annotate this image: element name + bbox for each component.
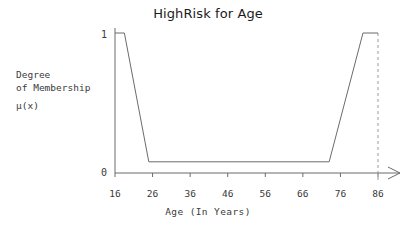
x-tick-label-56: 56 bbox=[253, 188, 277, 199]
x-tick-label-46: 46 bbox=[216, 188, 240, 199]
x-tick-label-76: 76 bbox=[328, 188, 352, 199]
x-tick-label-86: 86 bbox=[366, 188, 390, 199]
x-axis-label: Age (In Years) bbox=[0, 206, 416, 217]
x-tick-label-66: 66 bbox=[291, 188, 315, 199]
plot-area bbox=[0, 0, 416, 229]
chart-container: HighRisk for Age Degree of Membership μ(… bbox=[0, 0, 416, 229]
x-tick-label-26: 26 bbox=[141, 188, 165, 199]
membership-curve bbox=[115, 33, 378, 162]
x-tick-label-36: 36 bbox=[178, 188, 202, 199]
x-tick-label-16: 16 bbox=[103, 188, 127, 199]
